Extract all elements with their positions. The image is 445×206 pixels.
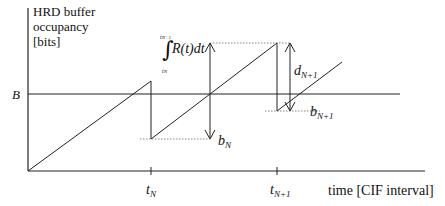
integral-annotation: tN+1 ∫ R(t)dt tN <box>160 34 230 84</box>
integral-expression: R(t)dt <box>172 42 205 56</box>
x-axis-label: time [CIF interval] <box>328 184 434 198</box>
label-bN1: bN+1 <box>310 105 334 119</box>
label-bN: bN <box>218 134 231 148</box>
y-axis-label-line1: HRD buffer <box>33 4 95 19</box>
integral-lower-limit: tN <box>162 68 167 74</box>
y-axis-label-line3: [bits] <box>33 34 95 49</box>
y-axis-label: HRD buffer occupancy [bits] <box>33 4 95 49</box>
y-axis-label-line2: occupancy <box>33 19 95 34</box>
tick-label-tN1: tN+1 <box>270 183 290 197</box>
buffer-level-label: B <box>12 88 20 101</box>
label-dN1: dN+1 <box>294 64 318 78</box>
tick-label-tN: tN <box>146 183 156 197</box>
hrd-buffer-diagram: HRD buffer occupancy [bits] B tN+1 ∫ R(t… <box>0 0 445 206</box>
